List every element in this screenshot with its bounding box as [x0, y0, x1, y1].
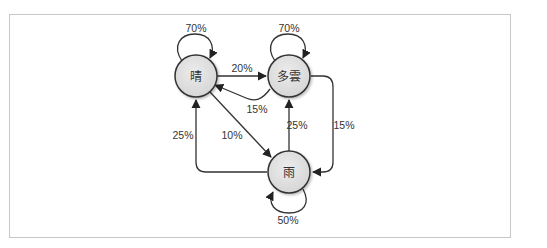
edge-label: 50% [277, 214, 298, 226]
edge-cloudy-sunny [215, 85, 270, 100]
edge-label: 15% [246, 103, 267, 115]
node-rain: 雨 [268, 151, 310, 193]
state-diagram: 晴 多雲 雨 70% 70% 50% 20% 15% 10% 25% 25% 1… [0, 0, 547, 248]
edge-cloudy-rain [311, 76, 333, 172]
edge-label: 70% [185, 22, 206, 34]
edge-sunny-rain [210, 92, 271, 157]
edge-label: 25% [172, 129, 193, 141]
node-label: 多雲 [277, 70, 301, 84]
node-cloudy: 多雲 [268, 55, 310, 97]
node-sunny: 晴 [175, 55, 217, 97]
edge-label: 15% [333, 119, 354, 131]
node-label: 晴 [190, 70, 202, 84]
edge-label: 10% [221, 129, 242, 141]
node-label: 雨 [283, 166, 295, 180]
edge-label: 70% [278, 22, 299, 34]
edge-label: 20% [231, 62, 252, 74]
edge-label: 25% [286, 119, 307, 131]
